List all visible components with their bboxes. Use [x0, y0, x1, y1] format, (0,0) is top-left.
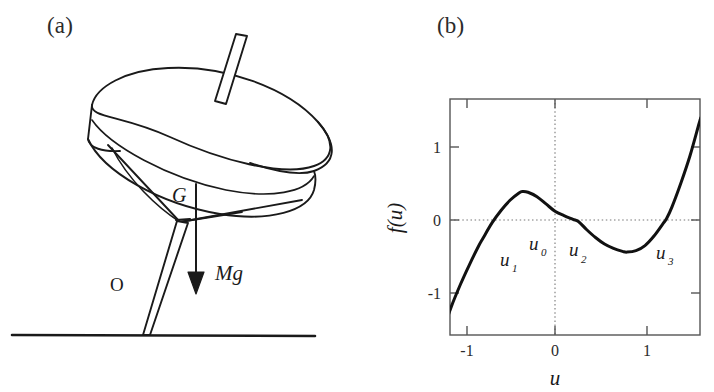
- root-label-u0-sub: 0: [541, 246, 547, 258]
- y-tick-label-zero: 0: [433, 212, 441, 229]
- figure-root: (a): [0, 0, 714, 392]
- weight-arrow: [188, 184, 204, 294]
- panel-b-label: (b): [437, 13, 464, 39]
- spike-lower: [143, 221, 188, 335]
- root-label-u2-base: u: [569, 239, 579, 260]
- panel-a-label: (a): [47, 13, 73, 39]
- plot-frame: [450, 99, 700, 335]
- y-tick-label-one: 1: [433, 139, 441, 156]
- panel-b-fu-plot: (b): [357, 0, 714, 392]
- fu-plot-svg: -1 0 1 1 0 -1 u f(u) u 1 u 0 u: [357, 0, 714, 392]
- root-label-u3-sub: 3: [667, 255, 674, 267]
- y-tick-label-minus1: -1: [428, 285, 441, 302]
- label-center-of-mass: G: [172, 184, 187, 206]
- root-label-u3-base: u: [656, 242, 666, 263]
- disk-top-ellipse: [92, 68, 330, 170]
- root-label-u1-sub: 1: [512, 262, 518, 274]
- cone-apex-joint: [176, 219, 190, 220]
- root-label-u2-sub: 2: [581, 253, 587, 265]
- label-contact-point: O: [110, 274, 124, 295]
- x-tick-label-minus1: -1: [460, 342, 473, 359]
- x-axis-label: u: [550, 366, 561, 390]
- panel-a-spinning-top: (a): [0, 0, 357, 392]
- x-tick-label-one: 1: [643, 342, 651, 359]
- root-label-u0-base: u: [529, 233, 539, 254]
- label-weight-force: Mg: [214, 261, 243, 285]
- x-tick-label-zero: 0: [551, 342, 559, 359]
- root-label-u1-base: u: [500, 249, 510, 270]
- cone-right-edge: [180, 200, 302, 222]
- ground-line: [12, 335, 315, 336]
- y-axis-label: f(u): [383, 203, 407, 233]
- spinning-top-drawing: G O Mg: [0, 0, 357, 392]
